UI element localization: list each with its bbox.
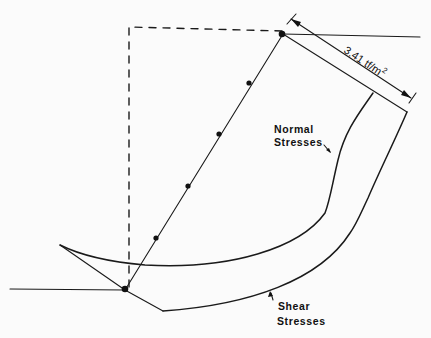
dimension-annotation: 3.41 tf/m2 — [287, 14, 416, 103]
shear-stresses-label-line2: Stresses — [277, 315, 326, 327]
shear-stresses-label-line1: Shear — [278, 300, 310, 312]
slope-point-toe — [122, 286, 129, 293]
dimension-value: 3.41 tf/m — [342, 44, 384, 78]
dashed-reference-lines — [129, 27, 282, 287]
normal-stress-distribution-curve — [60, 93, 373, 266]
dimension-label: 3.41 tf/m2 — [342, 42, 390, 80]
shear-stresses-arrow-icon — [268, 291, 273, 297]
ground-line-right — [283, 34, 420, 37]
stress-block-top-line — [283, 34, 407, 112]
normal-stresses-label-line1: Normal — [274, 123, 314, 135]
dimension-arrow-end-icon — [401, 90, 411, 98]
dimension-arrow-start-icon — [291, 19, 301, 27]
slope-point-crest — [279, 31, 286, 38]
slope-point — [185, 183, 190, 188]
ground-line-left — [10, 289, 125, 290]
slope-point — [246, 80, 251, 85]
slope-point — [216, 131, 221, 136]
slip-surface-line — [60, 245, 163, 311]
slope-point — [153, 235, 158, 240]
slope-stress-diagram: 3.41 tf/m2 Normal Stresses Shear Stresse… — [0, 0, 431, 338]
slope-face-line — [125, 34, 283, 290]
normal-stresses-label-line2: Stresses — [274, 136, 323, 148]
